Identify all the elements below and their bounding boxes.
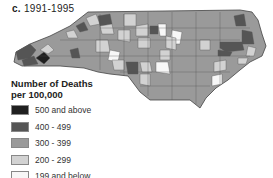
legend-item: 300 - 399: [11, 136, 91, 150]
legend-swatch: [11, 171, 29, 178]
legend-label: 500 and above: [35, 105, 91, 115]
legend-label: 199 and below: [35, 171, 90, 178]
legend-swatch: [11, 105, 29, 115]
legend: 500 and above 400 - 499 300 - 399 200 - …: [11, 103, 91, 178]
legend-item: 400 - 499: [11, 120, 91, 134]
legend-label: 200 - 299: [35, 155, 71, 165]
legend-title-line2: per 100,000: [11, 89, 93, 100]
legend-label: 400 - 499: [35, 122, 71, 132]
legend-item: 200 - 299: [11, 153, 91, 167]
panel-title: c.1991-1995: [12, 3, 74, 14]
legend-swatch: [11, 138, 29, 148]
legend-title: Number of Deaths per 100,000: [11, 78, 93, 100]
legend-swatch: [11, 122, 29, 132]
legend-label: 300 - 399: [35, 138, 71, 148]
legend-swatch: [11, 155, 29, 165]
legend-item: 500 and above: [11, 103, 91, 117]
legend-title-line1: Number of Deaths: [11, 78, 93, 89]
panel-letter: c.: [12, 3, 21, 14]
panel-period: 1991-1995: [24, 3, 75, 14]
legend-item: 199 and below: [11, 169, 91, 178]
